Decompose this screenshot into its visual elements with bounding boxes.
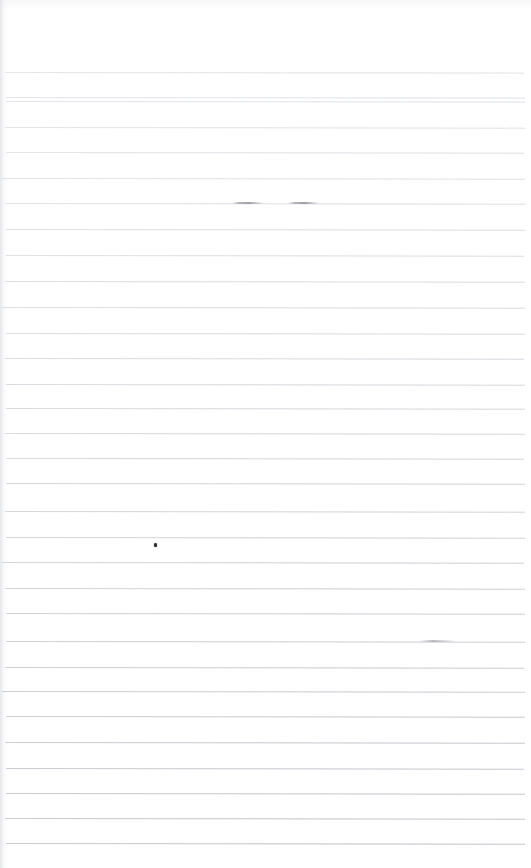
line-smudge-right [420,640,456,642]
ruled-line [6,152,524,154]
ruled-line [5,667,524,669]
ruled-line [6,101,525,103]
ruled-line [6,793,525,795]
ruled-line [6,229,525,231]
ruled-line [2,178,525,180]
ruled-line [2,307,525,309]
ruled-line [5,358,524,360]
scanned-page [0,0,531,868]
ruled-line [5,588,525,590]
ruled-line [6,537,525,539]
ruled-line [2,562,524,564]
ruled-line [5,433,525,435]
ruled-line [6,255,524,257]
ruled-line [6,483,525,485]
ruled-line [6,458,524,460]
ruled-line [5,511,525,513]
ruled-line [5,72,524,74]
ruled-line [5,127,525,129]
ruled-lines-group [0,0,531,868]
ruled-line [6,613,525,615]
ruled-line [5,742,525,744]
ruled-line [2,691,525,693]
ruled-line [6,716,525,718]
pencil-dash-right [288,202,319,204]
ruled-line [5,203,525,205]
ink-speck [154,543,157,547]
ruled-line [6,408,525,410]
ruled-line [6,97,525,99]
pencil-dash-left [232,202,263,204]
ruled-line [6,333,525,335]
ruled-line [6,384,525,386]
ruled-line [6,768,524,770]
ruled-line [5,281,525,283]
ruled-line [5,818,525,820]
ruled-line [6,843,525,845]
